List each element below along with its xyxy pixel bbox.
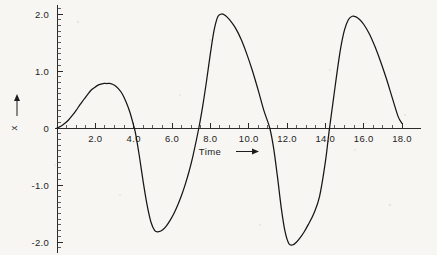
paper-speckles xyxy=(54,21,406,226)
x-tick-label: 18.0 xyxy=(392,133,412,144)
y-tick-label: -1.0 xyxy=(31,180,49,191)
y-axis-arrow-head xyxy=(14,94,20,101)
x-tick-label: 6.0 xyxy=(165,133,179,144)
axes xyxy=(55,5,421,253)
series-line-x(t) xyxy=(57,14,402,245)
data-curve xyxy=(57,14,402,245)
y-axis-title: x xyxy=(8,94,20,131)
y-tick-label: -2.0 xyxy=(31,237,49,248)
x-tick-label: 4.0 xyxy=(127,133,141,144)
line-chart: 2.04.06.08.010.012.014.016.018.0 2.01.00… xyxy=(0,0,437,255)
x-tick-label: 10.0 xyxy=(239,133,259,144)
x-axis-title: Time xyxy=(199,146,259,157)
x-tick-label: 8.0 xyxy=(203,133,217,144)
x-axis-title-label: Time xyxy=(199,146,221,157)
y-tick-label: 0 xyxy=(43,123,49,134)
x-tick-label: 16.0 xyxy=(354,133,374,144)
y-tick-label: 2.0 xyxy=(35,9,49,20)
figure-container: 2.04.06.08.010.012.014.016.018.0 2.01.00… xyxy=(0,0,437,255)
x-tick-label: 14.0 xyxy=(315,133,335,144)
y-tick-label: 1.0 xyxy=(35,66,49,77)
x-axis-arrow-head xyxy=(252,149,259,155)
x-tick-label: 2.0 xyxy=(88,133,102,144)
y-axis-title-label: x xyxy=(8,125,19,130)
x-tick-label: 12.0 xyxy=(277,133,297,144)
y-tick-labels: 2.01.00-1.0-2.0 xyxy=(31,9,49,248)
